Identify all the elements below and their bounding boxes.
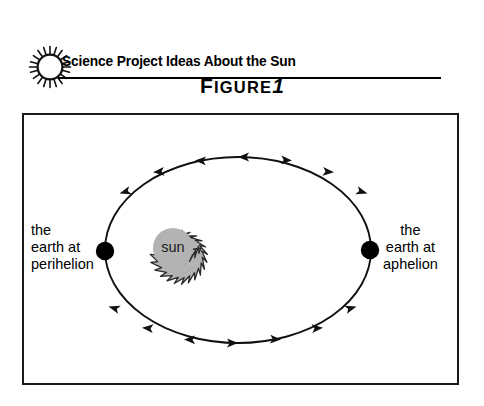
orbit-ellipse	[105, 157, 371, 343]
figure-caption-lead: F	[200, 74, 214, 97]
label-earth-at-aphelion: the earth at aphelion	[383, 222, 438, 273]
earth-perihelion-dot	[96, 242, 114, 260]
label-earth-at-perihelion: the earth at perihelion	[31, 222, 94, 273]
header-title: Science Project Ideas About the Sun	[62, 53, 296, 69]
earth-aphelion-dot	[361, 241, 379, 259]
sun-starburst	[150, 228, 207, 284]
figure-caption-number: 1	[272, 74, 284, 97]
figure-caption: FIGURE1	[0, 74, 484, 98]
figure-caption-rest: IGURE	[214, 78, 272, 96]
page-root: Science Project Ideas About the Sun FIGU…	[0, 0, 484, 406]
running-header: Science Project Ideas About the Sun	[0, 22, 484, 68]
sun-label: sun	[148, 239, 198, 256]
